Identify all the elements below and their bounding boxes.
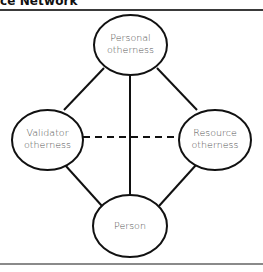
edge-resource-person	[159, 165, 196, 206]
label-person: Person	[93, 220, 167, 232]
edge-personal-resource	[157, 68, 197, 110]
label-line-2: otherness	[12, 139, 83, 151]
label-line-2: otherness	[179, 139, 251, 151]
bottom-rule	[0, 263, 263, 265]
label-line-1: Person	[93, 220, 167, 232]
label-line-2: otherness	[94, 44, 167, 56]
label-validator-otherness: Validator otherness	[12, 127, 83, 151]
label-resource-otherness: Resource otherness	[179, 127, 251, 151]
label-line-1: Validator	[12, 127, 83, 139]
edge-personal-validator	[64, 68, 104, 110]
label-personal-otherness: Personal otherness	[94, 32, 167, 56]
label-line-1: Personal	[94, 32, 167, 44]
label-line-1: Resource	[179, 127, 251, 139]
edge-validator-person	[65, 165, 102, 206]
